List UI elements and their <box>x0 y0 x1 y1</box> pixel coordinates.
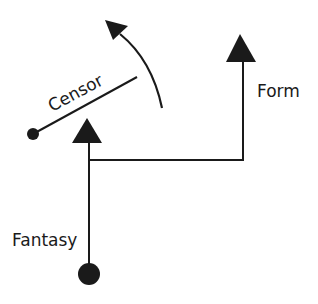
censor-swing-arc <box>120 34 162 108</box>
form-label: Form <box>257 81 300 101</box>
censor-pivot-dot <box>27 128 39 140</box>
fantasy-origin-dot <box>78 263 100 285</box>
form-arrowhead-icon <box>226 34 256 62</box>
censor-label: Censor <box>44 70 106 116</box>
fantasy-arrowhead-icon <box>72 118 102 143</box>
fantasy-label: Fantasy <box>12 230 77 250</box>
censor-form-fantasy-diagram: Censor Form Fantasy <box>0 0 318 304</box>
form-arrow-shaft <box>89 58 243 160</box>
